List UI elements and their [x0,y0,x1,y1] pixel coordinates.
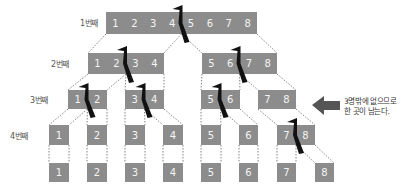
arrow-left-icon [312,96,340,115]
annotation-note: 3명밖에 없으므로 한 곳이 남는다. [344,97,397,117]
annotation-line-2: 한 곳이 남는다. [344,107,397,117]
annotation-line-1: 3명밖에 없으므로 [344,97,397,107]
tournament-diagram: 1번째 2번째 3번째 4번째 123456781234567812345678… [0,0,409,196]
